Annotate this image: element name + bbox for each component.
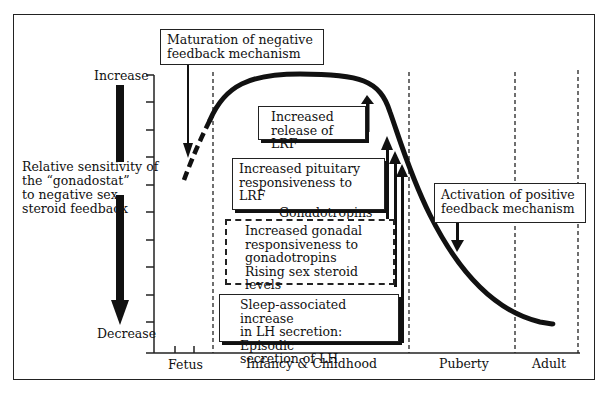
y-axis-bottom-label: Decrease	[97, 327, 156, 341]
box-line: responsiveness to LRF	[239, 176, 378, 203]
box-sleep-lh-secretion: Sleep-associated increase in LH secretio…	[219, 294, 399, 342]
box-line: Rising sex steroid levels	[245, 265, 387, 292]
box-maturation-negative-feedback: Maturation of negative feedback mechanis…	[160, 29, 324, 65]
box-positive-feedback: Activation of positive feedback mechanis…	[434, 183, 586, 223]
box-line: release of LRF	[271, 124, 359, 151]
x-label-fetus: Fetus	[168, 358, 203, 372]
box-line: Activation of positive	[441, 188, 579, 202]
y-axis-title-line: the “gonadostat”	[22, 174, 158, 188]
box-line: feedback mechanism	[167, 47, 317, 61]
box-line: feedback mechanism	[441, 202, 579, 216]
y-axis-top-label: Increase	[94, 69, 149, 83]
box-lrf-release: Increased release of LRF	[258, 106, 366, 140]
box-line: Increased gonadal	[245, 224, 387, 238]
box-line: Maturation of negative	[167, 33, 317, 47]
x-label-adult: Adult	[532, 357, 566, 371]
box-pituitary-responsiveness: Increased pituitary responsiveness to LR…	[232, 158, 385, 210]
box-line: responsiveness to	[245, 238, 387, 252]
box-line: Increased	[271, 110, 359, 124]
box-gonadal-responsiveness: Increased gonadal responsiveness to gona…	[225, 219, 395, 285]
y-axis-title-line: Relative sensitivity of	[22, 160, 158, 174]
box-line: Increased pituitary	[239, 162, 378, 176]
y-axis-title-line: steroid feedback	[22, 202, 158, 216]
y-axis-title: Relative sensitivity of the “gonadostat”…	[22, 160, 158, 216]
x-label-puberty: Puberty	[439, 357, 489, 371]
box-line: gonadotropins	[245, 251, 387, 265]
y-axis-title-line: to negative sex	[22, 188, 158, 202]
box-line: secretion of LH	[240, 352, 392, 366]
box-line: Sleep-associated increase	[240, 298, 392, 325]
box-line: in LH secretion: Episodic	[240, 325, 392, 352]
gonadotropins-row: Gonadotropins	[239, 206, 378, 220]
